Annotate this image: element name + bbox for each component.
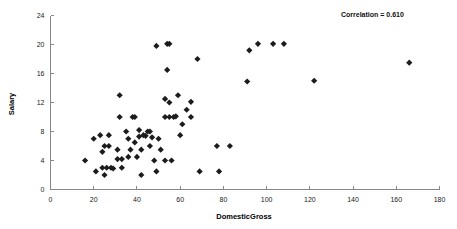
data-point [82, 157, 88, 163]
x-tick-label: 100 [261, 196, 273, 203]
data-point [138, 147, 144, 153]
x-tick-label: 120 [304, 196, 316, 203]
data-point [162, 96, 168, 102]
data-point [151, 157, 157, 163]
data-point [188, 99, 194, 105]
scatter-chart-figure: 020406080100120140160180 04812162024 Dom… [0, 0, 457, 229]
y-tick-label: 20 [37, 41, 45, 48]
axis-ticks-group [51, 16, 440, 190]
data-points-group [82, 41, 412, 178]
x-tick-labels: 020406080100120140160180 [49, 196, 446, 203]
data-point [149, 134, 155, 140]
data-point [106, 143, 112, 149]
x-tick-label: 0 [49, 196, 53, 203]
chart-canvas: 020406080100120140160180 04812162024 Dom… [0, 0, 457, 229]
data-point [117, 92, 123, 98]
data-point [197, 168, 203, 174]
x-tick-label: 140 [347, 196, 359, 203]
data-point [125, 154, 131, 160]
axes-group [51, 16, 440, 190]
data-point [184, 107, 190, 113]
x-tick-label: 60 [176, 196, 184, 203]
y-tick-label: 12 [37, 99, 45, 106]
data-point [168, 157, 174, 163]
data-point [162, 157, 168, 163]
data-point [164, 67, 170, 73]
data-point [175, 92, 181, 98]
x-tick-label: 160 [390, 196, 402, 203]
data-point [246, 47, 252, 53]
y-tick-labels: 04812162024 [37, 12, 45, 193]
x-axis-title: DomesticGross [216, 212, 271, 221]
data-point [97, 132, 103, 138]
y-axis-title: Salary [7, 92, 16, 115]
data-point [244, 78, 250, 84]
data-point [270, 41, 276, 47]
data-point [119, 165, 125, 171]
data-point [127, 147, 133, 153]
data-point [101, 172, 107, 178]
y-tick-label: 0 [41, 186, 45, 193]
data-point [311, 78, 317, 84]
y-tick-label: 8 [41, 128, 45, 135]
x-tick-label: 180 [434, 196, 446, 203]
y-tick-label: 16 [37, 70, 45, 77]
data-point [119, 156, 125, 162]
data-point [132, 139, 138, 145]
y-tick-label: 24 [37, 12, 45, 19]
data-point [153, 43, 159, 49]
x-tick-label: 80 [219, 196, 227, 203]
x-tick-label: 20 [90, 196, 98, 203]
data-point [147, 143, 153, 149]
data-point [117, 114, 123, 120]
data-point [99, 149, 105, 155]
data-point [216, 168, 222, 174]
y-tick-label: 4 [41, 157, 45, 164]
data-point [153, 168, 159, 174]
data-point [179, 121, 185, 127]
data-point [166, 99, 172, 105]
data-point [106, 132, 112, 138]
data-point [93, 168, 99, 174]
data-point [158, 147, 164, 153]
data-point [406, 60, 412, 66]
data-point [255, 41, 261, 47]
data-point [281, 41, 287, 47]
x-tick-label: 40 [133, 196, 141, 203]
data-point [138, 172, 144, 178]
data-point [134, 154, 140, 160]
data-point [123, 128, 129, 134]
data-point [155, 136, 161, 142]
correlation-annotation: Correlation = 0.610 [341, 11, 404, 18]
data-point [194, 56, 200, 62]
data-point [125, 136, 131, 142]
data-point [136, 127, 142, 133]
data-point [177, 132, 183, 138]
data-point [114, 147, 120, 153]
data-point [188, 114, 194, 120]
data-point [214, 143, 220, 149]
data-point [227, 143, 233, 149]
data-point [91, 136, 97, 142]
